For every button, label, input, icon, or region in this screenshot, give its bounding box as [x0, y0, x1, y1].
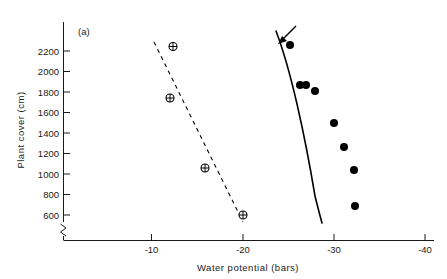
figure-container: 2200 2000 1800 1600 1400 1200 1000 800 6…	[0, 0, 447, 279]
y-axis-title: Plant cover (cm)	[15, 91, 26, 168]
x-tick-label--40: -40	[418, 244, 432, 255]
filled-marker-group	[286, 41, 359, 210]
data-point-open	[166, 94, 174, 102]
x-axis-tick-labels: -10 -20 -30 -40	[145, 244, 432, 255]
arrow-annotation	[278, 26, 296, 44]
data-point-filled	[311, 87, 319, 95]
dashed-fit-line	[154, 42, 243, 222]
data-point-filled	[350, 166, 358, 174]
solid-fit-curve	[276, 31, 322, 223]
open-marker-group	[166, 43, 247, 220]
y-tick-label-1200: 1200	[38, 148, 59, 159]
y-axis-tick-labels: 2200 2000 1800 1600 1400 1200 1000 800 6…	[38, 46, 59, 221]
y-tick-label-1800: 1800	[38, 87, 59, 98]
scatter-plot: 2200 2000 1800 1600 1400 1200 1000 800 6…	[0, 0, 447, 279]
data-point-filled	[351, 202, 359, 210]
y-tick-label-2200: 2200	[38, 46, 59, 57]
y-axis-ticks	[64, 51, 71, 215]
data-point-filled	[286, 41, 294, 49]
y-tick-label-1600: 1600	[38, 107, 59, 118]
x-axis-ticks	[152, 234, 426, 241]
y-axis: 2200 2000 1800 1600 1400 1200 1000 800 6…	[15, 22, 70, 240]
data-point-filled	[302, 81, 310, 89]
data-point-filled	[330, 119, 338, 127]
y-tick-label-1000: 1000	[38, 169, 59, 180]
x-axis: -10 -20 -30 -40 Water potential (bars)	[64, 234, 435, 273]
data-point-open	[169, 43, 177, 51]
data-point-open	[239, 211, 247, 219]
x-axis-title: Water potential (bars)	[197, 262, 299, 273]
y-axis-break-symbol	[61, 224, 67, 236]
x-tick-label--10: -10	[145, 244, 159, 255]
data-point-filled	[340, 143, 348, 151]
y-tick-label-2000: 2000	[38, 66, 59, 77]
data-point-open	[201, 164, 209, 172]
panel-label: (a)	[78, 26, 90, 37]
y-tick-label-800: 800	[43, 189, 59, 200]
x-tick-label--20: -20	[236, 244, 250, 255]
y-tick-label-1400: 1400	[38, 128, 59, 139]
y-tick-label-600: 600	[43, 210, 59, 221]
x-tick-label--30: -30	[327, 244, 341, 255]
